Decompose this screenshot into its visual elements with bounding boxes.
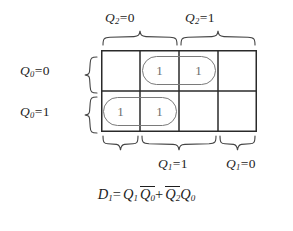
brace-row-1 <box>84 95 98 135</box>
equation-term1-b-overbar: Q0 <box>140 186 155 203</box>
equation-term1-a-sub: 1 <box>134 193 139 203</box>
row-label-q0-1-value: 1 <box>43 104 50 119</box>
row-label-q0-0-eq: = <box>35 63 43 78</box>
column-label-q2-equals-0: Q2=0 <box>105 11 135 25</box>
column-label-q2-0-eq: = <box>120 10 128 25</box>
brace-top-left <box>101 30 179 46</box>
row-label-q0-0-sub: 0 <box>30 69 34 79</box>
column-label-q2-1-var: Q <box>185 10 195 25</box>
column-label-q1-0-value: 0 <box>249 156 256 171</box>
column-label-q1-1-eq: = <box>173 156 181 171</box>
column-label-q1-equals-1: Q1=1 <box>158 157 188 171</box>
equation-term2-a-var: Q <box>165 186 175 202</box>
group-oval-bottom <box>103 97 177 126</box>
row-label-q0-0-var: Q <box>20 63 30 78</box>
row-label-q0-1-var: Q <box>20 104 30 119</box>
column-label-q2-1-sub: 2 <box>195 16 199 26</box>
column-label-q1-0-eq: = <box>241 156 249 171</box>
boolean-equation: D1=Q1Q0+Q2Q0 <box>0 186 293 204</box>
equation-term2-b-var: Q <box>180 186 190 202</box>
column-label-q2-1-value: 1 <box>208 10 215 25</box>
equation-plus-sign: + <box>155 186 163 202</box>
brace-bottom-left <box>101 135 140 151</box>
column-label-q2-equals-1: Q2=1 <box>185 11 215 25</box>
equation-lhs-var: D <box>98 186 108 202</box>
column-label-q2-1-eq: = <box>200 10 208 25</box>
column-label-q2-0-sub: 2 <box>115 16 119 26</box>
group-oval-top <box>142 56 216 85</box>
column-label-q1-1-sub: 1 <box>168 162 172 172</box>
row-label-q0-0-value: 0 <box>43 63 50 78</box>
row-label-q0-equals-0: Q0=0 <box>20 64 50 78</box>
row-label-q0-1-eq: = <box>35 104 43 119</box>
brace-bottom-right <box>218 135 257 151</box>
equation-term2-a-overbar: Q2 <box>165 186 180 203</box>
column-label-q1-equals-0: Q1=0 <box>226 157 256 171</box>
column-label-q2-0-var: Q <box>105 10 115 25</box>
equation-term2-b-sub: 0 <box>191 193 196 203</box>
equation-term1-a-var: Q <box>123 186 133 202</box>
row-label-q0-1-sub: 0 <box>30 110 34 120</box>
row-label-q0-equals-1: Q0=1 <box>20 105 50 119</box>
equation-equals-sign: = <box>113 186 121 202</box>
brace-bottom-middle <box>140 135 218 151</box>
karnaugh-map-figure: Q2=0 Q2=1 Q0=0 Q0=1 <box>0 0 293 231</box>
column-label-q1-0-sub: 1 <box>236 162 240 172</box>
column-label-q1-1-var: Q <box>158 156 168 171</box>
column-label-q2-0-value: 0 <box>128 10 135 25</box>
brace-top-right <box>179 30 257 46</box>
column-label-q1-1-value: 1 <box>181 156 188 171</box>
equation-term1-b-var: Q <box>140 186 150 202</box>
brace-row-0 <box>84 55 98 95</box>
column-label-q1-0-var: Q <box>226 156 236 171</box>
